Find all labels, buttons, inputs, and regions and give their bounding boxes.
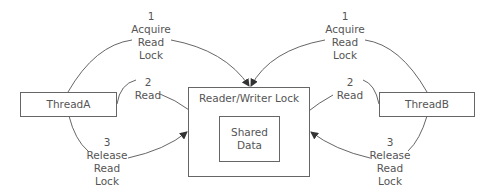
step-number: 1: [126, 10, 176, 23]
left-step-2: 2 Read: [128, 76, 168, 102]
step-text: Lock: [320, 49, 370, 62]
arrow-a-acquire: [68, 40, 132, 92]
step-text: Read: [365, 162, 415, 175]
step-text: Lock: [365, 175, 415, 188]
step-text: Read: [320, 36, 370, 49]
step-text: Read: [126, 36, 176, 49]
right-step-2: 2 Read: [330, 76, 370, 102]
arrow-b-release: [311, 132, 370, 158]
arrow-a-acquire-to-lock: [171, 40, 249, 86]
step-text: Lock: [82, 175, 132, 188]
step-number: 1: [320, 10, 370, 23]
right-step-3: 3 Release Read Lock: [365, 136, 415, 188]
arrow-b-acquire: [365, 40, 427, 92]
left-step-3: 3 Release Read Lock: [82, 136, 132, 188]
rw-lock-label: Reader/Writer Lock: [189, 92, 309, 105]
thread-a-box: ThreadA: [20, 92, 117, 117]
step-text: Read: [330, 89, 370, 102]
step-text: Release: [365, 149, 415, 162]
shared-data-box: Shared Data: [219, 116, 280, 162]
arrow-a-release: [128, 132, 187, 158]
step-number: 3: [82, 136, 132, 149]
right-step-1: 1 Acquire Read Lock: [320, 10, 370, 62]
thread-b-box: ThreadB: [379, 92, 475, 117]
thread-b-label: ThreadB: [380, 98, 474, 111]
step-text: Release: [82, 149, 132, 162]
thread-a-label: ThreadA: [21, 98, 116, 111]
step-number: 2: [128, 76, 168, 89]
left-step-1: 1 Acquire Read Lock: [126, 10, 176, 62]
step-text: Read: [128, 89, 168, 102]
step-number: 2: [330, 76, 370, 89]
shared-data-line1: Shared: [220, 126, 279, 139]
step-text: Read: [82, 162, 132, 175]
step-text: Lock: [126, 49, 176, 62]
arrow-b-acquire-to-lock: [251, 40, 325, 86]
shared-data-line2: Data: [220, 139, 279, 152]
step-number: 3: [365, 136, 415, 149]
step-text: Acquire: [320, 23, 370, 36]
step-text: Acquire: [126, 23, 176, 36]
